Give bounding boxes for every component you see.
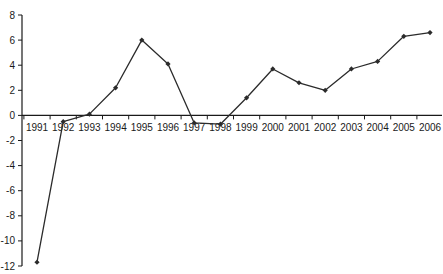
y-tick-label: 0	[9, 110, 15, 121]
series-line	[37, 33, 430, 263]
y-tick-label: 6	[9, 35, 15, 46]
x-tick-label: 2003	[340, 122, 363, 133]
y-axis: 86420-2-4-6-8-10-12	[1, 10, 22, 272]
data-series	[34, 30, 432, 265]
x-tick-label: 1995	[131, 122, 154, 133]
x-tick-label: 2005	[393, 122, 416, 133]
diamond-marker-icon	[427, 30, 432, 35]
diamond-marker-icon	[34, 260, 39, 265]
x-tick-label: 1993	[78, 122, 101, 133]
x-tick-label: 1994	[104, 122, 127, 133]
diamond-marker-icon	[296, 80, 301, 85]
chart-canvas: 86420-2-4-6-8-10-12 19911992199319941995…	[0, 0, 443, 274]
y-tick-label: -4	[6, 160, 15, 171]
x-tick-label: 1999	[235, 122, 258, 133]
y-tick-label: 2	[9, 85, 15, 96]
y-tick-label: 8	[9, 10, 15, 21]
x-tick-label: 2002	[314, 122, 337, 133]
y-tick-label: -10	[1, 235, 16, 246]
line-chart: 86420-2-4-6-8-10-12 19911992199319941995…	[0, 0, 443, 274]
y-tick-label: -12	[1, 261, 16, 272]
y-tick-label: -6	[6, 185, 15, 196]
x-tick-label: 1991	[26, 122, 49, 133]
y-tick-label: -2	[6, 135, 15, 146]
x-tick-label: 2000	[262, 122, 285, 133]
x-axis: 1991199219931994199519961997199819992000…	[22, 115, 442, 133]
x-tick-label: 1996	[157, 122, 180, 133]
y-tick-label: -8	[6, 210, 15, 221]
y-tick-label: 4	[9, 60, 15, 71]
x-tick-label: 2001	[288, 122, 311, 133]
x-tick-label: 2006	[419, 122, 442, 133]
x-tick-label: 2004	[366, 122, 389, 133]
